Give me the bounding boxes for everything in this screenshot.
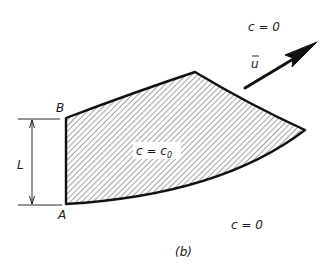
region-label: c = c0 (136, 144, 172, 160)
point-a-label: A (57, 208, 66, 222)
hatched-region (66, 72, 305, 204)
outer-label-bottom: c = 0 (231, 218, 263, 232)
figure-caption: (b) (175, 245, 192, 259)
outer-label-top: c = 0 (248, 20, 280, 34)
diagram-canvas: c = c0 L B A c = 0 c = 0 u (b) (0, 0, 335, 267)
velocity-arrow-head-icon (285, 42, 317, 67)
length-label: L (17, 158, 24, 172)
point-b-label: B (56, 101, 64, 115)
velocity-label: u (251, 57, 259, 71)
